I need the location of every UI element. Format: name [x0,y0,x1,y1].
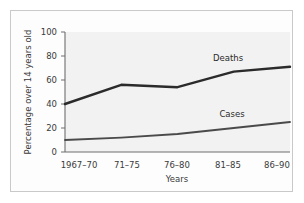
y-axis-ticks [61,32,65,152]
y-tick-label-20: 20 [46,123,57,133]
series-label-deaths: Deaths [213,53,244,63]
series-label-cases: Cases [219,109,245,119]
x-tick-label-2: 76–80 [164,160,190,170]
y-tick-label-0: 0 [52,147,57,157]
chart-figure: 0 20 40 60 80 100 Percentage over 14 yea… [0,0,304,203]
x-tick-label-1: 71–75 [114,160,140,170]
y-tick-label-60: 60 [46,75,57,85]
x-tick-label-4: 86–90 [264,160,290,170]
y-axis-title: Percentage over 14 years old [23,30,33,155]
x-tick-label-3: 81–85 [215,160,241,170]
y-tick-label-100: 100 [41,27,57,37]
line-chart: 0 20 40 60 80 100 Percentage over 14 yea… [0,0,304,203]
x-tick-label-0: 1967–70 [61,160,98,170]
x-axis-title: Years [165,174,189,184]
y-tick-label-40: 40 [46,99,57,109]
y-tick-label-80: 80 [46,51,57,61]
